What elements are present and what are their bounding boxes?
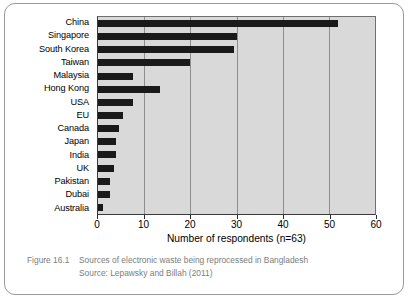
bar <box>98 138 116 145</box>
bar-row <box>98 56 375 69</box>
bar <box>98 191 110 198</box>
figure-caption: Figure 16.1 Sources of electronic waste … <box>27 254 387 280</box>
category-label: USA <box>5 96 93 109</box>
bar-row <box>98 162 375 175</box>
bar-row <box>98 135 375 148</box>
category-label: Dubai <box>5 188 93 201</box>
category-label: UK <box>5 162 93 175</box>
bar-row <box>98 83 375 96</box>
plot-area <box>97 16 376 215</box>
bar-row <box>98 109 375 122</box>
x-axis-tick-label: 30 <box>222 220 252 230</box>
bar <box>98 73 133 80</box>
category-label: South Korea <box>5 43 93 56</box>
bar-row <box>98 96 375 109</box>
bar <box>98 86 160 93</box>
category-label: Singapore <box>5 29 93 42</box>
caption-source: Source: Lepawsky and Billah (2011) <box>79 267 212 280</box>
bar <box>98 46 234 53</box>
bar-row <box>98 30 375 43</box>
category-label: China <box>5 16 93 29</box>
category-label: Japan <box>5 135 93 148</box>
bar <box>98 165 114 172</box>
bar-row <box>98 17 375 30</box>
bar <box>98 33 237 40</box>
figure-frame: ChinaSingaporeSouth KoreaTaiwanMalaysiaH… <box>4 3 404 295</box>
x-axis-tick-label: 20 <box>175 220 205 230</box>
x-axis-title: Number of respondents (n=63) <box>97 233 376 244</box>
caption-title: Sources of electronic waste being reproc… <box>79 254 387 267</box>
caption-figure-number: Figure 16.1 <box>27 254 79 267</box>
bar <box>98 112 123 119</box>
bar-row <box>98 148 375 161</box>
bar <box>98 20 338 27</box>
caption-line-title: Figure 16.1 Sources of electronic waste … <box>27 254 387 267</box>
bar <box>98 125 119 132</box>
x-axis-tick-label: 60 <box>361 220 391 230</box>
bar-row <box>98 201 375 214</box>
bar-series <box>98 17 375 214</box>
bar-row <box>98 43 375 56</box>
x-axis-tick-label: 0 <box>82 220 112 230</box>
bar-row <box>98 70 375 83</box>
bar <box>98 151 116 158</box>
bar <box>98 59 190 66</box>
bar-row <box>98 188 375 201</box>
category-label: Taiwan <box>5 56 93 69</box>
category-label: Hong Kong <box>5 82 93 95</box>
x-axis-tick-label: 40 <box>268 220 298 230</box>
x-axis-tick-label: 50 <box>315 220 345 230</box>
category-label: EU <box>5 109 93 122</box>
category-label: Malaysia <box>5 69 93 82</box>
category-label: Canada <box>5 122 93 135</box>
bar <box>98 99 133 106</box>
bar-row <box>98 175 375 188</box>
bar <box>98 178 110 185</box>
bar-row <box>98 122 375 135</box>
bar <box>98 204 103 211</box>
caption-line-source: Source: Lepawsky and Billah (2011) <box>27 267 387 280</box>
bar-chart: ChinaSingaporeSouth KoreaTaiwanMalaysiaH… <box>5 4 405 252</box>
category-label: Pakistan <box>5 175 93 188</box>
category-label: India <box>5 149 93 162</box>
category-axis-labels: ChinaSingaporeSouth KoreaTaiwanMalaysiaH… <box>5 16 93 215</box>
category-label: Australia <box>5 202 93 215</box>
x-axis-tick-label: 10 <box>129 220 159 230</box>
